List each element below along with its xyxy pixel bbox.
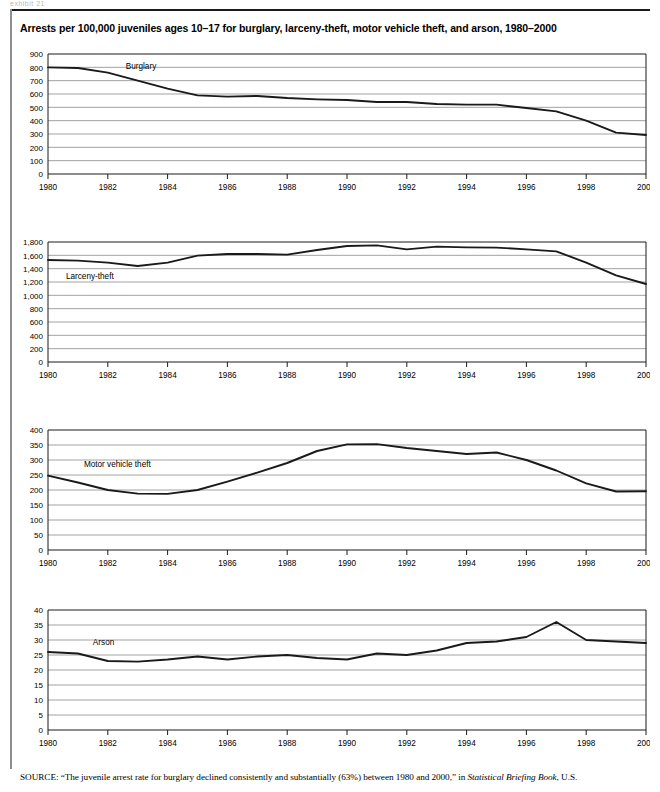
source-note: SOURCE: “The juvenile arrest rate for bu…: [20, 772, 656, 783]
series-label: Motor vehicle theft: [84, 460, 152, 469]
x-tick-label: 1986: [218, 371, 237, 380]
y-tick-label: 200: [30, 486, 44, 495]
y-tick-label: 10: [34, 696, 43, 705]
figure-title: Arrests per 100,000 juveniles ages 10–17…: [20, 22, 650, 35]
y-tick-label: 200: [30, 144, 44, 153]
y-tick-label: 500: [30, 104, 44, 113]
x-tick-label: 1990: [338, 739, 357, 748]
x-tick-label: 1996: [517, 183, 536, 192]
y-tick-label: 400: [30, 426, 44, 435]
x-tick-label: 1986: [218, 739, 237, 748]
y-tick-label: 350: [30, 441, 44, 450]
x-tick-label: 1984: [158, 371, 177, 380]
x-tick-label: 1982: [99, 371, 118, 380]
y-tick-label: 0: [39, 726, 44, 735]
x-tick-label: 1988: [278, 371, 297, 380]
y-tick-label: 900: [30, 50, 44, 59]
data-line: [48, 622, 646, 662]
x-tick-label: 1982: [99, 183, 118, 192]
x-tick-label: 1998: [577, 371, 596, 380]
chart-svg: 0501001502002503003504001980198219841986…: [10, 424, 650, 574]
y-tick-label: 1,000: [23, 292, 44, 301]
y-tick-label: 0: [39, 546, 44, 555]
figure-page: exhibit 21 Arrests per 100,000 juveniles…: [0, 0, 660, 792]
x-tick-label: 1994: [457, 371, 476, 380]
x-tick-label: 2000: [637, 371, 650, 380]
y-tick-label: 700: [30, 77, 44, 86]
source-label: SOURCE:: [20, 772, 58, 782]
chart-svg: 0100200300400500600700800900198019821984…: [10, 48, 650, 198]
y-tick-label: 1,200: [23, 278, 44, 287]
chart-panel-motor-vehicle-theft: 0501001502002503003504001980198219841986…: [10, 424, 650, 574]
source-publication: Statistical Briefing Book: [467, 772, 556, 782]
source-text-1: “The juvenile arrest rate for burglary d…: [61, 772, 468, 782]
x-tick-label: 1988: [278, 739, 297, 748]
data-line: [48, 444, 646, 494]
x-tick-label: 1994: [457, 739, 476, 748]
y-tick-label: 100: [30, 516, 44, 525]
y-tick-label: 400: [30, 117, 44, 126]
x-tick-label: 1980: [39, 183, 58, 192]
x-tick-label: 1980: [39, 559, 58, 568]
cut-top-text: exhibit 21: [10, 0, 650, 8]
chart-panel-larceny-theft: 02004006008001,0001,2001,4001,6001,80019…: [10, 236, 650, 386]
x-tick-label: 1990: [338, 371, 357, 380]
data-line: [48, 67, 646, 135]
y-tick-label: 300: [30, 456, 44, 465]
x-tick-label: 1998: [577, 739, 596, 748]
y-tick-label: 0: [39, 358, 44, 367]
y-tick-label: 30: [34, 636, 43, 645]
top-rule: [10, 9, 650, 11]
x-tick-label: 1996: [517, 559, 536, 568]
x-tick-label: 1982: [99, 739, 118, 748]
y-tick-label: 0: [39, 170, 44, 179]
y-tick-label: 1,800: [23, 238, 44, 247]
y-tick-label: 15: [34, 681, 43, 690]
x-tick-label: 1994: [457, 559, 476, 568]
y-tick-label: 800: [30, 64, 44, 73]
x-tick-label: 2000: [637, 559, 650, 568]
x-tick-label: 2000: [637, 739, 650, 748]
x-tick-label: 1980: [39, 371, 58, 380]
chart-svg: 0510152025303540198019821984198619881990…: [10, 604, 650, 754]
x-tick-label: 1984: [158, 183, 177, 192]
x-tick-label: 2000: [637, 183, 650, 192]
y-tick-label: 800: [30, 305, 44, 314]
y-tick-label: 5: [39, 711, 44, 720]
chart-panel-burglary: 0100200300400500600700800900198019821984…: [10, 48, 650, 198]
y-tick-label: 300: [30, 130, 44, 139]
x-tick-label: 1992: [398, 739, 417, 748]
x-tick-label: 1982: [99, 559, 118, 568]
series-label: Burglary: [126, 62, 157, 71]
y-tick-label: 25: [34, 651, 43, 660]
x-tick-label: 1990: [338, 559, 357, 568]
y-tick-label: 35: [34, 621, 43, 630]
x-tick-label: 1998: [577, 183, 596, 192]
y-tick-label: 250: [30, 471, 44, 480]
x-tick-label: 1996: [517, 739, 536, 748]
y-tick-label: 1,600: [23, 252, 44, 261]
chart-svg: 02004006008001,0001,2001,4001,6001,80019…: [10, 236, 650, 386]
y-tick-label: 600: [30, 90, 44, 99]
data-line: [48, 245, 646, 284]
x-tick-label: 1988: [278, 559, 297, 568]
x-tick-label: 1980: [39, 739, 58, 748]
x-tick-label: 1998: [577, 559, 596, 568]
y-tick-label: 200: [30, 345, 44, 354]
y-tick-label: 20: [34, 666, 43, 675]
y-tick-label: 150: [30, 501, 44, 510]
y-tick-label: 400: [30, 332, 44, 341]
y-tick-label: 600: [30, 318, 44, 327]
y-tick-label: 1,400: [23, 265, 44, 274]
x-tick-label: 1992: [398, 559, 417, 568]
x-tick-label: 1986: [218, 559, 237, 568]
series-label: Larceny-theft: [66, 272, 115, 281]
x-tick-label: 1992: [398, 183, 417, 192]
x-tick-label: 1986: [218, 183, 237, 192]
series-label: Arson: [93, 638, 115, 647]
x-tick-label: 1988: [278, 183, 297, 192]
x-tick-label: 1984: [158, 559, 177, 568]
source-text-2: , U.S.: [557, 772, 578, 782]
chart-panel-arson: 0510152025303540198019821984198619881990…: [10, 604, 650, 754]
x-tick-label: 1990: [338, 183, 357, 192]
